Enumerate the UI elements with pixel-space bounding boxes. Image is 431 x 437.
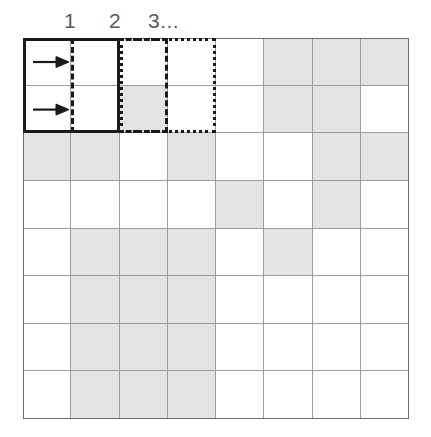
- column-label-3: 3...: [148, 9, 179, 33]
- sliding-window-3: [120, 38, 217, 133]
- column-label-1: 1: [64, 9, 76, 33]
- column-label-2: 2: [109, 9, 121, 33]
- column-label-row: 1 2 3...: [0, 9, 431, 37]
- sliding-window-grid-figure: 1 2 3...: [0, 0, 431, 437]
- grid: [23, 38, 409, 419]
